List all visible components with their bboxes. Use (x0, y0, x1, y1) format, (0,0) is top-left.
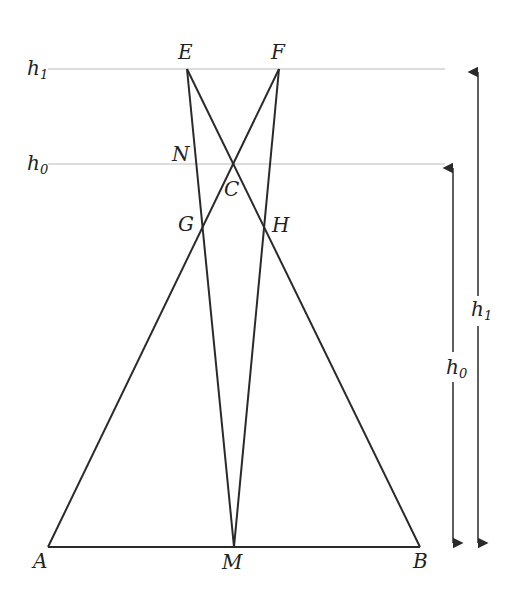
label-E: E (177, 40, 193, 64)
segment-MF (234, 69, 279, 547)
label-C: C (224, 177, 239, 201)
label-M: M (221, 550, 243, 574)
label-H: H (271, 213, 290, 237)
label-A: A (31, 549, 47, 573)
level-label-h0: h0 (27, 151, 48, 177)
level-label-h1: h1 (27, 56, 48, 82)
segment-BE (187, 69, 420, 547)
label-G: G (178, 212, 194, 236)
segment-ME (187, 69, 234, 547)
geometry-diagram: E F N C G H A M B h1 h0 h0 h1 (0, 0, 510, 601)
label-N: N (171, 142, 191, 166)
segment-AF (48, 69, 279, 547)
label-B: B (412, 549, 428, 573)
label-F: F (270, 40, 286, 64)
